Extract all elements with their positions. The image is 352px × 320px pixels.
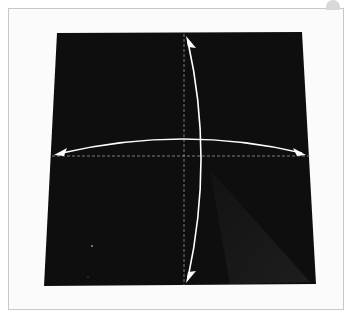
origami-illustration <box>0 0 352 320</box>
